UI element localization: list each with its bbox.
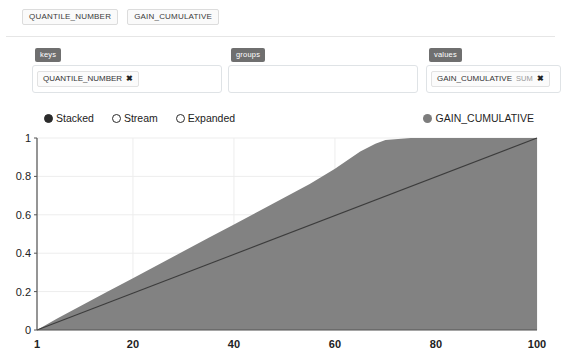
dropzone-groups-label: groups bbox=[231, 48, 265, 62]
svg-text:0.2: 0.2 bbox=[16, 286, 31, 298]
svg-text:0.6: 0.6 bbox=[16, 209, 31, 221]
svg-text:1: 1 bbox=[34, 338, 40, 350]
chart-legend-row: Stacked Stream Expanded GAIN_CUMULATIVE bbox=[0, 112, 561, 132]
svg-text:80: 80 bbox=[430, 338, 442, 350]
close-icon[interactable]: ✖ bbox=[537, 75, 544, 83]
dropzone-values-label: values bbox=[429, 48, 462, 62]
chart-container: 00.20.40.60.81 120406080100 bbox=[0, 130, 561, 363]
values-chip-gain-cumulative[interactable]: GAIN_CUMULATIVE SUM ✖ bbox=[431, 71, 550, 87]
cumulative-gain-chart[interactable]: 00.20.40.60.81 120406080100 bbox=[0, 130, 561, 363]
values-chip-aggregation[interactable]: SUM bbox=[516, 75, 533, 83]
dropzone-groups: groups bbox=[228, 43, 418, 93]
radio-empty-icon[interactable] bbox=[112, 114, 121, 123]
chart-y-axis-ticks: 00.20.40.60.81 bbox=[16, 132, 37, 336]
radio-filled-icon[interactable] bbox=[44, 114, 53, 123]
svg-text:0.8: 0.8 bbox=[16, 170, 31, 182]
svg-text:40: 40 bbox=[228, 338, 240, 350]
mode-option-expanded[interactable]: Expanded bbox=[176, 112, 235, 124]
field-chip-strip: QUANTILE_NUMBER GAIN_CUMULATIVE bbox=[0, 0, 561, 33]
close-icon[interactable]: ✖ bbox=[126, 75, 133, 83]
mode-option-stacked-label: Stacked bbox=[56, 112, 94, 124]
series-legend-label: GAIN_CUMULATIVE bbox=[436, 112, 534, 124]
keys-chip-label: QUANTILE_NUMBER bbox=[43, 75, 122, 83]
pivot-dropzone-panel: keys QUANTILE_NUMBER ✖ groups values GAI… bbox=[6, 36, 555, 92]
radio-empty-icon[interactable] bbox=[176, 114, 185, 123]
chart-x-axis-ticks: 120406080100 bbox=[34, 338, 546, 350]
values-chip-label: GAIN_CUMULATIVE bbox=[437, 75, 512, 83]
chart-mode-radio-group: Stacked Stream Expanded bbox=[44, 112, 235, 124]
svg-text:100: 100 bbox=[528, 338, 546, 350]
svg-text:20: 20 bbox=[127, 338, 139, 350]
mode-option-expanded-label: Expanded bbox=[188, 112, 235, 124]
field-chip-quantile-number[interactable]: QUANTILE_NUMBER bbox=[22, 9, 118, 25]
dropzone-keys-label: keys bbox=[35, 48, 61, 62]
legend-color-dot-icon bbox=[423, 114, 432, 123]
svg-text:0: 0 bbox=[25, 324, 31, 336]
dropzone-keys-box[interactable]: QUANTILE_NUMBER ✖ bbox=[32, 65, 222, 93]
field-chip-gain-cumulative[interactable]: GAIN_CUMULATIVE bbox=[127, 9, 219, 25]
keys-chip-quantile-number[interactable]: QUANTILE_NUMBER ✖ bbox=[37, 71, 139, 87]
dropzone-keys: keys QUANTILE_NUMBER ✖ bbox=[32, 43, 222, 93]
dropzone-groups-box[interactable] bbox=[228, 65, 418, 93]
dropzone-values-box[interactable]: GAIN_CUMULATIVE SUM ✖ bbox=[426, 65, 561, 93]
dropzone-values: values GAIN_CUMULATIVE SUM ✖ bbox=[426, 43, 561, 93]
series-legend-item[interactable]: GAIN_CUMULATIVE bbox=[423, 112, 534, 124]
mode-option-stream[interactable]: Stream bbox=[112, 112, 158, 124]
mode-option-stacked[interactable]: Stacked bbox=[44, 112, 94, 124]
svg-text:1: 1 bbox=[25, 132, 31, 144]
mode-option-stream-label: Stream bbox=[124, 112, 158, 124]
svg-text:60: 60 bbox=[329, 338, 341, 350]
svg-text:0.4: 0.4 bbox=[16, 247, 31, 259]
